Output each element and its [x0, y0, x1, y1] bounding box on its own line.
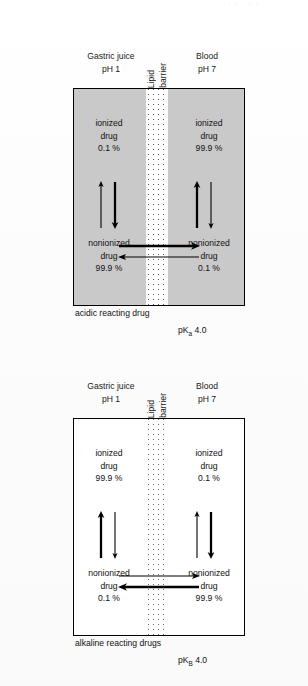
panel-header-labels: Gastric juice pH 1 Lipid barrier Blood p… — [73, 370, 245, 418]
header-blood: Blood pH 7 — [165, 50, 249, 75]
species-line2: drug — [172, 130, 245, 143]
arrow-down-thick-icon — [110, 181, 120, 229]
pka-value: 4.0 — [194, 325, 206, 335]
species-line1: ionized — [172, 447, 245, 460]
arrow-down-thin-icon — [110, 511, 120, 559]
panel-alkaline-reacting-drugs: Gastric juice pH 1 Lipid barrier Blood p… — [0, 370, 308, 670]
caption-alkaline: alkaline reacting drugs — [75, 638, 161, 648]
species-percent: 0.1 % — [73, 142, 146, 155]
species-percent: 99.9 % — [73, 472, 146, 485]
arrow-right-thick-icon — [118, 241, 200, 251]
pka-label-acidic: pKa 4.0 — [178, 325, 206, 337]
compartment-box-acidic: ionized drug 0.1 % ionized drug 99.9 % n… — [73, 88, 245, 306]
header-lipid-barrier-line1: Lipid — [146, 70, 156, 88]
arrow-up-thin-icon — [96, 181, 106, 229]
pkb-label-alkaline: pKB 4.0 — [178, 655, 207, 667]
arrow-down-thick-icon — [206, 511, 216, 559]
pka-prefix: pK — [178, 325, 189, 335]
arrow-up-thick-icon — [96, 511, 106, 559]
equilibrium-arrows-blood — [190, 511, 224, 559]
species-ionized-gastric: ionized drug 0.1 % — [73, 117, 146, 155]
pka-subscript: a — [189, 330, 193, 337]
species-ionized-blood: ionized drug 99.9 % — [172, 117, 245, 155]
header-blood-line1: Blood — [165, 380, 249, 393]
species-line1: ionized — [172, 117, 245, 130]
species-line1: ionized — [73, 117, 146, 130]
figure-canvas: ·· ·· Gastric juice pH 1 Lipid barrier B… — [0, 0, 308, 686]
header-blood: Blood pH 7 — [165, 380, 249, 405]
arrow-left-thick-icon — [118, 582, 200, 592]
pkb-value: 4.0 — [195, 655, 207, 665]
equilibrium-arrows-blood — [190, 181, 224, 229]
header-lipid-barrier-line1: Lipid — [146, 400, 156, 418]
header-blood-ph: pH 7 — [165, 63, 249, 76]
arrow-down-thin-icon — [206, 181, 216, 229]
species-line2: drug — [73, 130, 146, 143]
panel-acidic-reacting-drug: Gastric juice pH 1 Lipid barrier Blood p… — [0, 40, 308, 340]
compartment-box-alkaline: ionized drug 99.9 % ionized drug 0.1 % n… — [73, 418, 245, 636]
equilibrium-arrows-gastric — [94, 511, 128, 559]
lipid-barrier-strip-icon — [146, 418, 168, 636]
arrow-up-thick-icon — [192, 181, 202, 229]
pkb-prefix: pK — [178, 655, 189, 665]
membrane-transfer-arrows — [118, 571, 200, 595]
header-blood-line1: Blood — [165, 50, 249, 63]
arrow-left-thin-icon — [118, 252, 200, 262]
arrow-right-thin-icon — [118, 571, 200, 581]
species-line2: drug — [73, 460, 146, 473]
species-line1: ionized — [73, 447, 146, 460]
pkb-subscript: B — [189, 660, 193, 667]
species-percent: 99.9 % — [172, 142, 245, 155]
header-blood-ph: pH 7 — [165, 393, 249, 406]
cropped-header-remnant: ·· ·· — [228, 0, 288, 7]
species-line2: drug — [172, 460, 245, 473]
equilibrium-arrows-gastric — [94, 181, 128, 229]
species-percent: 0.1 % — [172, 472, 245, 485]
arrow-up-thin-icon — [192, 511, 202, 559]
membrane-transfer-arrows — [118, 241, 200, 265]
lipid-barrier-strip-icon — [146, 88, 168, 306]
panel-header-labels: Gastric juice pH 1 Lipid barrier Blood p… — [73, 40, 245, 88]
species-ionized-blood: ionized drug 0.1 % — [172, 447, 245, 485]
species-ionized-gastric: ionized drug 99.9 % — [73, 447, 146, 485]
caption-acidic: acidic reacting drug — [75, 308, 150, 318]
